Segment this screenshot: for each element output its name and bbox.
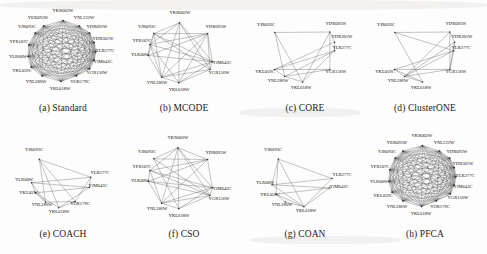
- network-graph-h: YKR002WYER095WYNL222WYJR093CYDR095WYDR30…: [364, 126, 486, 230]
- edge: [154, 159, 208, 160]
- network-node[interactable]: [402, 150, 404, 152]
- node-label: YDR095W: [326, 21, 348, 26]
- network-node[interactable]: [436, 200, 438, 202]
- network-node[interactable]: [454, 167, 456, 169]
- node-label-group: YJR093CYDR095WYDR301WYLR277CYKL059CYGR15…: [255, 21, 353, 90]
- edge: [208, 34, 213, 62]
- network-node[interactable]: [94, 42, 96, 44]
- node-label: YKL018W: [291, 85, 312, 90]
- node-label: YKR002W: [53, 8, 75, 13]
- edge: [162, 23, 180, 78]
- network-node[interactable]: [149, 170, 151, 172]
- network-node[interactable]: [422, 81, 424, 83]
- edge: [150, 170, 210, 195]
- network-node[interactable]: [178, 82, 180, 84]
- network-node[interactable]: [207, 33, 209, 35]
- network-node[interactable]: [27, 56, 29, 58]
- edge: [422, 146, 423, 207]
- network-node[interactable]: [454, 41, 456, 43]
- network-node[interactable]: [177, 147, 179, 149]
- network-node[interactable]: [62, 20, 64, 22]
- network-node[interactable]: [284, 76, 286, 78]
- network-node[interactable]: [89, 32, 91, 34]
- network-node[interactable]: [422, 145, 424, 147]
- network-node[interactable]: [41, 75, 43, 77]
- node-label: YNL222W: [74, 15, 95, 20]
- edge: [278, 159, 332, 179]
- node-label: YER095W: [28, 15, 49, 20]
- node-label: YPR107C: [133, 38, 152, 43]
- edge-group: [148, 148, 212, 209]
- network-node[interactable]: [34, 32, 36, 34]
- network-node[interactable]: [31, 182, 33, 184]
- network-node[interactable]: [453, 50, 455, 52]
- network-node[interactable]: [90, 177, 92, 179]
- edge: [276, 188, 330, 194]
- network-node[interactable]: [394, 32, 396, 34]
- node-label: YNL286W: [272, 202, 293, 207]
- network-node[interactable]: [334, 50, 336, 52]
- network-node[interactable]: [79, 25, 81, 27]
- network-panel-b: YKR002WYJR093CYDR095WYPR107CYLR00WYJM043…: [123, 0, 245, 127]
- network-node[interactable]: [449, 157, 451, 159]
- panel-caption-d: (d) ClusterONE: [364, 103, 486, 113]
- node-label: YKL059C: [260, 192, 279, 197]
- edge: [275, 42, 335, 69]
- edge: [162, 195, 210, 203]
- panel-caption-a: (a) Standard: [2, 103, 124, 113]
- figure-container: YKR002WYER095WYNL222WYJR093CYDR095WYDR30…: [0, 0, 487, 254]
- network-node[interactable]: [277, 158, 279, 160]
- network-node[interactable]: [178, 208, 180, 210]
- network-node[interactable]: [43, 25, 45, 27]
- network-graph-e: YJR093CYLR277CYLR00WYJM043CYKL059CYNL286…: [2, 126, 124, 230]
- edge: [179, 62, 213, 83]
- node-label: YDR301W: [332, 34, 354, 39]
- network-node[interactable]: [76, 75, 78, 77]
- network-node[interactable]: [179, 22, 181, 24]
- edge: [162, 188, 213, 204]
- network-node[interactable]: [389, 169, 391, 171]
- network-node[interactable]: [161, 202, 163, 204]
- node-label: YNL286W: [388, 78, 409, 83]
- network-node[interactable]: [153, 33, 155, 35]
- node-label: YKL018W: [169, 213, 190, 218]
- network-node[interactable]: [334, 41, 336, 43]
- node-group: [271, 158, 333, 207]
- network-node[interactable]: [388, 181, 390, 183]
- edge: [275, 32, 285, 76]
- network-node[interactable]: [28, 44, 30, 46]
- network-node[interactable]: [274, 32, 276, 34]
- node-label-group: YJR093CYLR277CYLR00WYJM043CYKL059CYNL286…: [15, 147, 110, 214]
- network-graph-b: YKR002WYJR093CYDR095WYPR107CYLR00WYJM043…: [123, 0, 245, 104]
- node-label: YNL286W: [32, 202, 53, 207]
- node-label: YLR277C: [455, 173, 474, 178]
- node-label: YLR277C: [451, 45, 470, 50]
- network-node[interactable]: [439, 150, 441, 152]
- edge: [208, 160, 213, 188]
- edge: [403, 158, 450, 201]
- network-node[interactable]: [39, 159, 41, 161]
- network-node[interactable]: [207, 159, 209, 161]
- node-label: YDR095W: [87, 24, 109, 29]
- network-node[interactable]: [402, 200, 404, 202]
- network-panel-c: YJR093CYDR095WYDR301WYLR277CYKL059CYGR15…: [244, 0, 366, 127]
- network-node[interactable]: [329, 31, 331, 33]
- network-node[interactable]: [60, 81, 62, 83]
- network-node[interactable]: [149, 44, 151, 46]
- network-node[interactable]: [394, 157, 396, 159]
- node-label: YGR156W: [209, 196, 231, 201]
- edge: [392, 167, 454, 192]
- edge: [154, 148, 178, 159]
- node-label: YJR093C: [377, 22, 395, 27]
- network-node[interactable]: [449, 31, 451, 33]
- network-node[interactable]: [404, 76, 406, 78]
- network-node[interactable]: [161, 77, 163, 79]
- node-label: YOR179C: [70, 201, 90, 206]
- network-node[interactable]: [302, 81, 304, 83]
- node-label: YDR095W: [206, 24, 228, 29]
- node-label: YKL018W: [50, 86, 71, 91]
- network-node[interactable]: [331, 178, 333, 180]
- node-label: YGR156W: [448, 195, 470, 200]
- network-node[interactable]: [153, 158, 155, 160]
- network-node[interactable]: [421, 206, 423, 208]
